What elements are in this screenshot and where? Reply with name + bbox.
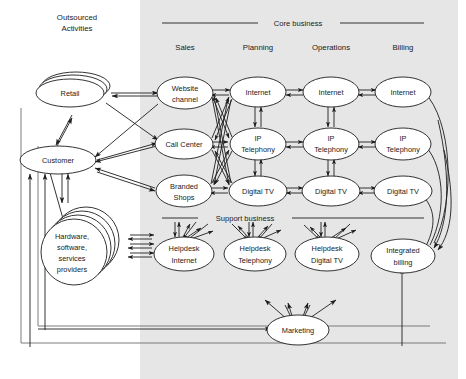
- column-header-sales: Sales: [175, 43, 195, 52]
- node-integrated-billing-label-1: Integrated: [386, 246, 419, 255]
- node-customer-label: Customer: [42, 156, 75, 165]
- node-planning-internet[interactable]: Internet: [230, 77, 286, 107]
- node-marketing[interactable]: Marketing: [267, 315, 329, 345]
- node-providers-label-3: services: [58, 254, 85, 263]
- node-billing-digital-tv[interactable]: Digital TV: [374, 176, 432, 206]
- node-website-channel[interactable]: Website channel: [157, 77, 213, 109]
- node-retail[interactable]: Retail: [36, 72, 110, 107]
- edge-retail-customer: [56, 115, 72, 145]
- node-operations-internet-label: Internet: [318, 88, 343, 97]
- node-operations-digital-tv[interactable]: Digital TV: [302, 176, 360, 206]
- node-marketing-label: Marketing: [282, 326, 314, 335]
- node-customer[interactable]: Customer: [20, 146, 96, 174]
- diagram-canvas: Outsourced Activities Core business Sale…: [0, 0, 466, 379]
- node-website-channel-label-1: Website: [172, 84, 199, 93]
- node-billing-internet[interactable]: Internet: [375, 77, 431, 107]
- node-helpdesk-digital-tv[interactable]: Helpdesk Digital TV: [295, 237, 359, 271]
- node-call-center-label: Call Center: [166, 140, 204, 149]
- node-billing-digital-tv-label: Digital TV: [387, 187, 419, 196]
- node-branded-shops-label-1: Branded: [170, 182, 198, 191]
- node-providers-label-1: Hardware,: [55, 232, 89, 241]
- node-providers-label-2: software,: [57, 243, 87, 252]
- outsourced-title-line1: Outsourced: [57, 13, 97, 22]
- node-planning-ip-telephony[interactable]: IP Telephony: [230, 128, 286, 160]
- column-header-operations: Operations: [312, 43, 350, 52]
- node-planning-ip-telephony-label-1: IP: [255, 134, 262, 143]
- node-planning-digital-tv[interactable]: Digital TV: [229, 176, 287, 206]
- node-planning-digital-tv-label: Digital TV: [242, 187, 274, 196]
- node-helpdesk-internet-label-1: Helpdesk: [169, 244, 200, 253]
- node-helpdesk-telephony-label-1: Helpdesk: [240, 244, 271, 253]
- node-integrated-billing-label-2: billing: [394, 258, 413, 267]
- node-website-channel-label-2: channel: [172, 95, 198, 104]
- diagram-svg: Outsourced Activities Core business Sale…: [0, 0, 466, 379]
- node-billing-ip-telephony-label-2: Telephony: [386, 145, 420, 154]
- node-operations-ip-telephony[interactable]: IP Telephony: [303, 128, 359, 160]
- node-retail-label: Retail: [61, 89, 80, 98]
- node-planning-internet-label: Internet: [245, 88, 270, 97]
- node-branded-shops[interactable]: Branded Shops: [156, 175, 212, 207]
- column-header-billing: Billing: [393, 43, 414, 52]
- node-integrated-billing[interactable]: Integrated billing: [371, 239, 435, 273]
- node-operations-ip-telephony-label-1: IP: [328, 134, 335, 143]
- core-business-label: Core business: [274, 19, 323, 28]
- node-billing-ip-telephony-label-1: IP: [400, 134, 407, 143]
- node-helpdesk-telephony[interactable]: Helpdesk Telephony: [224, 237, 286, 271]
- node-planning-ip-telephony-label-2: Telephony: [241, 145, 275, 154]
- node-helpdesk-internet-label-2: Internet: [171, 256, 196, 265]
- edge-customer-retail: [56, 118, 72, 148]
- node-operations-digital-tv-label: Digital TV: [315, 187, 347, 196]
- node-operations-internet[interactable]: Internet: [303, 77, 359, 107]
- outsourced-title-line2: Activities: [62, 24, 93, 33]
- node-providers-label-4: providers: [57, 265, 88, 274]
- node-branded-shops-label-2: Shops: [174, 193, 195, 202]
- node-helpdesk-telephony-label-2: Telephony: [238, 256, 272, 265]
- node-billing-internet-label: Internet: [390, 88, 415, 97]
- node-billing-ip-telephony[interactable]: IP Telephony: [375, 128, 431, 160]
- column-header-planning: Planning: [243, 43, 273, 52]
- node-helpdesk-digital-tv-label-1: Helpdesk: [312, 244, 343, 253]
- node-operations-ip-telephony-label-2: Telephony: [314, 145, 348, 154]
- node-helpdesk-internet[interactable]: Helpdesk Internet: [154, 237, 214, 271]
- node-call-center[interactable]: Call Center: [155, 129, 213, 159]
- outsourced-activities-title: Outsourced Activities: [57, 13, 97, 33]
- support-business-label: Support business: [216, 214, 275, 223]
- node-helpdesk-digital-tv-label-2: Digital TV: [311, 256, 343, 265]
- node-providers[interactable]: Hardware, software, services providers: [41, 207, 119, 285]
